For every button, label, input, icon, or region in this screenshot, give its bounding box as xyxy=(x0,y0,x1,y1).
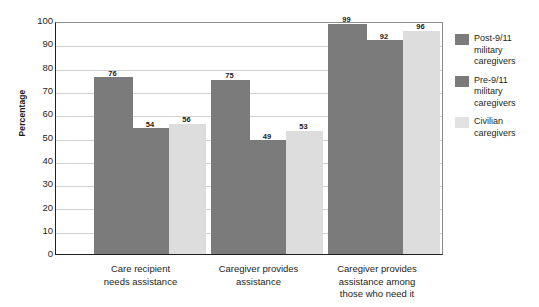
y-tick-70: 70 xyxy=(13,86,53,96)
bar-value-g1-s1: 49 xyxy=(249,132,285,141)
bar-g1-s0 xyxy=(211,80,250,254)
bar-value-g0-s2: 56 xyxy=(168,115,205,124)
category-label-1: Caregiver provides assistance xyxy=(196,263,321,288)
y-tick-0: 0 xyxy=(13,249,53,259)
category-label-2: Caregiver provides assistance among thos… xyxy=(312,263,442,301)
bar-g0-s1 xyxy=(133,128,169,254)
bar-g2-s2 xyxy=(403,31,440,254)
y-tick-90: 90 xyxy=(13,39,53,49)
legend-label-civilian: Civilian caregivers xyxy=(474,116,516,139)
legend-label-pre-911: Pre-9/11 military caregivers xyxy=(474,75,516,110)
legend-swatch-icon-pre-911 xyxy=(455,76,469,87)
bar-g0-s0 xyxy=(94,77,133,254)
bar-value-g0-s1: 54 xyxy=(132,120,168,129)
y-tick-100: 100 xyxy=(13,16,53,26)
bar-value-g1-s2: 53 xyxy=(285,122,322,131)
bar-value-g1-s0: 75 xyxy=(210,71,249,80)
bar-value-g2-s2: 96 xyxy=(402,22,439,31)
bar-g1-s2 xyxy=(286,131,323,254)
y-tick-20: 20 xyxy=(13,203,53,213)
bar-value-g2-s1: 92 xyxy=(366,32,402,41)
bar-g1-s1 xyxy=(250,140,286,254)
y-tick-60: 60 xyxy=(13,109,53,119)
legend-item-civilian[interactable]: Civilian caregivers xyxy=(455,116,539,139)
bar-g2-s0 xyxy=(328,24,367,254)
legend: Post-9/11 military caregivers Pre-9/11 m… xyxy=(455,33,539,146)
legend-swatch-icon-civilian xyxy=(455,117,469,128)
bar-value-g0-s0: 76 xyxy=(93,69,132,78)
bar-value-g2-s0: 99 xyxy=(327,15,366,24)
y-tick-30: 30 xyxy=(13,179,53,189)
y-tick-80: 80 xyxy=(13,63,53,73)
y-tick-10: 10 xyxy=(13,226,53,236)
bar-chart: Percentage 100 90 80 70 60 50 40 30 20 1… xyxy=(0,0,539,307)
y-tick-40: 40 xyxy=(13,156,53,166)
legend-item-pre-911[interactable]: Pre-9/11 military caregivers xyxy=(455,75,539,110)
category-label-0: Care recipient needs assistance xyxy=(78,263,203,288)
y-tick-50: 50 xyxy=(13,133,53,143)
bar-g2-s1 xyxy=(367,40,403,254)
legend-swatch-icon-post-911 xyxy=(455,34,469,45)
bar-g0-s2 xyxy=(169,124,206,254)
legend-item-post-911[interactable]: Post-9/11 military caregivers xyxy=(455,33,539,68)
legend-label-post-911: Post-9/11 military caregivers xyxy=(474,33,516,68)
